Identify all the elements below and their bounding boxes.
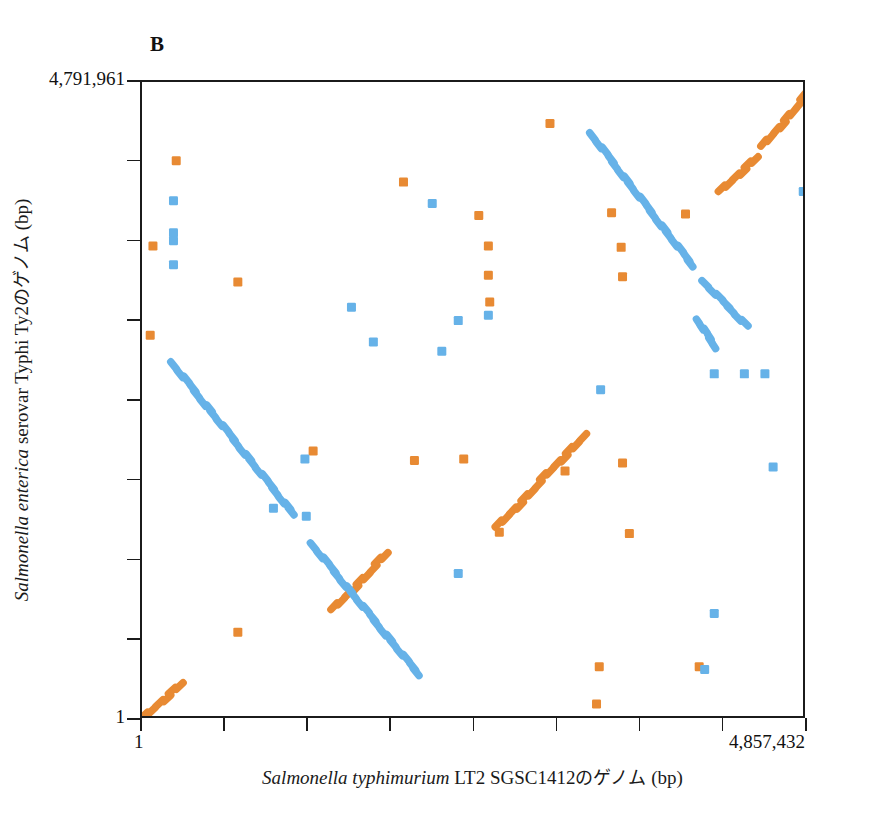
forward-match-point: [146, 331, 155, 340]
forward-match-point: [485, 297, 494, 306]
forward-match-point: [495, 528, 504, 537]
reverse-match-point: [437, 347, 446, 356]
x-axis-max-label: 4,857,432: [729, 731, 805, 753]
y-axis-tick: [127, 718, 140, 720]
forward-match-point: [233, 628, 242, 637]
forward-match-point: [592, 700, 601, 709]
forward-match-point: [561, 467, 570, 476]
x-axis-title-unit: (bp): [646, 767, 682, 788]
reverse-match-segment: [310, 543, 419, 676]
forward-match-point: [618, 459, 627, 468]
forward-match-point: [410, 456, 419, 465]
reverse-match-point: [300, 455, 309, 464]
y-axis-min-label: 1: [116, 706, 126, 728]
reverse-match-point: [454, 316, 463, 325]
y-axis-tick: [127, 240, 140, 242]
y-axis-tick: [127, 479, 140, 481]
y-axis-title-unit: (bp): [11, 199, 32, 235]
forward-match-point: [595, 662, 604, 671]
forward-match-point: [474, 211, 483, 220]
y-axis-title-strain: serovar Typhi Ty2: [11, 306, 32, 449]
forward-match-point: [625, 529, 634, 538]
forward-match-point: [309, 447, 318, 456]
x-axis-tick: [805, 718, 807, 731]
x-axis-tick: [306, 718, 308, 731]
reverse-match-point: [596, 385, 605, 394]
x-axis-tick: [223, 718, 225, 731]
forward-match-point: [484, 242, 493, 251]
x-axis-tick: [722, 718, 724, 731]
reverse-match-point: [740, 369, 749, 378]
reverse-match-point: [347, 303, 356, 312]
forward-match-segment: [495, 434, 586, 527]
forward-match-segment: [761, 93, 805, 146]
reverse-match-point: [760, 369, 769, 378]
forward-match-point: [484, 271, 493, 280]
y-axis-tick: [127, 319, 140, 321]
y-axis-title-wrapper: Salmonella enterica serovar Typhi Ty2のゲノ…: [0, 0, 44, 825]
x-axis-title-strain: LT2 SGSC1412: [449, 767, 575, 788]
reverse-match-point: [454, 569, 463, 578]
x-axis-tick: [556, 718, 558, 731]
forward-match-point: [618, 272, 627, 281]
reverse-match-point: [269, 504, 278, 513]
y-axis-max-label: 4,791,961: [49, 68, 125, 90]
reverse-match-point: [700, 665, 709, 674]
x-axis-tick: [639, 718, 641, 731]
reverse-match-point: [169, 196, 178, 205]
reverse-match-point: [428, 199, 437, 208]
x-axis-tick: [140, 718, 142, 731]
forward-match-point: [399, 178, 408, 187]
panel-label: B: [150, 34, 164, 55]
x-axis-tick: [473, 718, 475, 731]
forward-match-point: [617, 243, 626, 252]
reverse-match-point: [169, 236, 178, 245]
x-axis-tick: [389, 718, 391, 731]
reverse-match-segment: [696, 319, 715, 348]
reverse-match-point: [484, 311, 493, 320]
y-axis-title-jp: のゲノム: [11, 235, 32, 306]
forward-match-point: [607, 208, 616, 217]
dot-plot-marks: [142, 82, 805, 718]
y-axis-title-species: Salmonella enterica: [11, 449, 32, 602]
forward-match-segment: [142, 683, 183, 718]
x-axis-title-jp: のゲノム: [575, 767, 646, 788]
forward-match-point: [172, 156, 181, 165]
reverse-match-point: [799, 187, 805, 196]
reverse-match-segment: [590, 133, 693, 267]
reverse-match-point: [710, 369, 719, 378]
forward-match-point: [545, 119, 554, 128]
forward-match-segment: [718, 157, 758, 192]
y-axis-tick: [127, 160, 140, 162]
y-axis-tick: [127, 80, 140, 82]
x-axis-min-label: 1: [134, 731, 144, 753]
figure-page: B 4,791,961 1 1 4,857,432 Salmonella typ…: [0, 0, 871, 825]
y-axis-tick: [127, 559, 140, 561]
reverse-match-point: [710, 609, 719, 618]
reverse-match-point: [769, 463, 778, 472]
reverse-match-segment: [171, 362, 294, 515]
reverse-match-point: [169, 228, 178, 237]
forward-match-point: [459, 455, 468, 464]
y-axis-tick: [127, 638, 140, 640]
forward-match-point: [233, 277, 242, 286]
reverse-match-segment: [702, 281, 748, 326]
dot-plot-area: [140, 80, 805, 718]
y-axis-title: Salmonella enterica serovar Typhi Ty2のゲノ…: [10, 199, 34, 602]
reverse-match-point: [369, 337, 378, 346]
forward-match-point: [681, 210, 690, 219]
reverse-match-point: [302, 512, 311, 521]
dot-plot-canvas: [142, 82, 803, 716]
y-axis-tick: [127, 399, 140, 401]
x-axis-title-species: Salmonella typhimurium: [262, 767, 449, 788]
reverse-match-point: [169, 260, 178, 269]
x-axis-title: Salmonella typhimurium LT2 SGSC1412のゲノム …: [140, 766, 805, 790]
forward-match-point: [148, 242, 157, 251]
